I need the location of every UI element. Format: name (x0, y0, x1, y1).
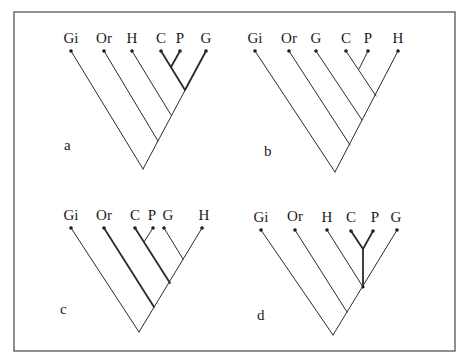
figure-frame (14, 12, 455, 351)
branch (363, 231, 373, 249)
branch (289, 51, 350, 145)
taxon-label: C (156, 30, 166, 46)
branch (359, 51, 368, 69)
branch (161, 51, 185, 90)
taxon-label: Gi (248, 30, 263, 46)
branch (171, 51, 180, 67)
branch (316, 51, 362, 120)
branch (335, 51, 398, 172)
panel-b-cladogram: Gi Or G C P H b (248, 30, 404, 172)
taxon-label: G (311, 30, 322, 46)
taxon-label: Or (287, 208, 303, 224)
taxon-label: Gi (254, 209, 269, 225)
taxon-label: C (346, 209, 356, 225)
branch (261, 230, 333, 335)
branch (132, 51, 171, 115)
taxon-label: Or (96, 207, 112, 223)
panel-label: d (257, 307, 265, 323)
taxon-label: P (364, 30, 372, 46)
branch (164, 228, 183, 259)
taxon-label: P (148, 207, 156, 223)
taxon-label: Or (281, 30, 297, 46)
polytomy-node (361, 285, 364, 288)
taxon-label: H (322, 209, 333, 225)
taxon-label: H (393, 30, 404, 46)
panel-d-cladogram: Gi Or H C P G d (254, 208, 402, 335)
taxon-label: H (127, 30, 138, 46)
taxon-label: G (163, 207, 174, 223)
branch (351, 231, 363, 249)
cladogram-figure: Gi Or H C P G a Gi Or G C P H (0, 0, 466, 363)
taxon-label: P (371, 209, 379, 225)
panel-label: a (64, 137, 71, 153)
taxon-label: H (199, 207, 210, 223)
taxon-label: C (130, 207, 140, 223)
branch (104, 51, 158, 141)
taxon-label: G (391, 209, 402, 225)
branch (71, 228, 139, 332)
branch (185, 51, 206, 90)
branch (71, 51, 143, 169)
taxon-label: P (176, 30, 184, 46)
taxon-label: C (341, 30, 351, 46)
branch (135, 228, 170, 283)
branch (139, 228, 202, 332)
taxon-label: G (201, 30, 212, 46)
taxon-label: Or (96, 30, 112, 46)
branch (104, 228, 154, 307)
taxon-label: Gi (64, 207, 79, 223)
panel-c-cladogram: Gi Or C P G H c (60, 207, 210, 332)
branch (295, 230, 347, 312)
panel-label: b (264, 143, 272, 159)
branch (346, 51, 376, 96)
panel-a-cladogram: Gi Or H C P G a (64, 30, 212, 169)
branch (144, 228, 153, 242)
branch (327, 230, 363, 287)
taxon-label: Gi (64, 30, 79, 46)
panel-label: c (60, 301, 67, 317)
